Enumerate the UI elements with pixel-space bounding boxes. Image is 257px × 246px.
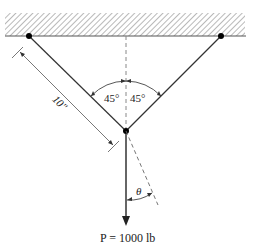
right-arc-arrow-a bbox=[126, 79, 131, 83]
load-label: P = 1000 lb bbox=[100, 231, 155, 245]
left-arc-arrow-b bbox=[121, 79, 126, 83]
right-arc-arrow-b bbox=[157, 91, 161, 96]
cable-load-diagram: 10" 45° 45° θ P = 1000 lb bbox=[0, 0, 257, 246]
right-support-pin bbox=[218, 33, 224, 39]
length-dimension-line bbox=[20, 52, 113, 145]
left-support-pin bbox=[26, 33, 32, 39]
length-label: 10" bbox=[50, 93, 70, 113]
load-arrow-head bbox=[122, 216, 130, 226]
right-angle-label: 45° bbox=[130, 92, 145, 104]
theta-label: θ bbox=[136, 185, 142, 197]
theta-arrow-b bbox=[147, 193, 152, 197]
left-angle-label: 45° bbox=[104, 92, 119, 104]
theta-reference-line bbox=[126, 131, 158, 205]
ceiling-hatch bbox=[5, 13, 245, 36]
left-arc-arrow-a bbox=[91, 91, 95, 96]
dim-extension-top bbox=[12, 47, 23, 58]
